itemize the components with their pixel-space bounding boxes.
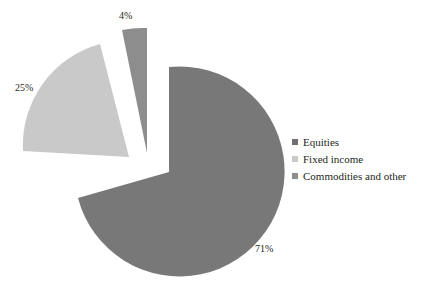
legend-label-commodities: Commodities and other [303,170,406,183]
legend-item-fixed-income[interactable]: Fixed income [292,151,420,167]
legend-item-equities[interactable]: Equities [292,134,420,150]
legend-swatch-icon-equities [292,139,298,145]
chart-legend: Equities Fixed income Commodities and ot… [292,134,420,185]
legend-label-equities: Equities [303,136,339,149]
pie-chart-figure: 4% 25% 71% Equities Fixed income Commodi… [0,0,421,289]
slice-value-label-fixed-income: 25% [15,82,33,93]
legend-item-commodities[interactable]: Commodities and other [292,168,420,184]
pie-slice-fixed-income[interactable] [23,44,129,157]
pie-slice-commodities[interactable] [122,28,147,153]
slice-value-label-commodities: 4% [119,10,132,21]
legend-label-fixed-income: Fixed income [303,153,363,166]
legend-swatch-icon-fixed-income [292,156,298,162]
slice-value-label-equities: 71% [255,243,273,254]
legend-swatch-icon-commodities [292,173,298,179]
